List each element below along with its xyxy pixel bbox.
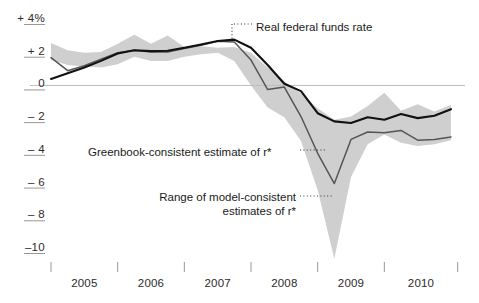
y-axis-tick-label: –10: [5, 241, 45, 253]
figure-container: + 4%+ 20– 2– 4– 6– 8–10 2005200620072008…: [0, 0, 479, 303]
annotation-greenbook-consistent-estimate-label: Greenbook-consistent estimate of r*: [88, 146, 271, 158]
x-axis-year-label: 2009: [321, 277, 381, 289]
annotation-real-federal-funds-rate-label: Real federal funds rate: [256, 21, 372, 33]
y-axis-tick-label: – 8: [5, 208, 45, 220]
annotation-range-line-1: Range of model-consistent: [131, 190, 296, 204]
x-axis-year-label: 2010: [391, 277, 451, 289]
y-axis-tick-label: + 4%: [5, 12, 45, 24]
x-axis-year-label: 2006: [121, 277, 181, 289]
y-axis-tick-label: + 2: [5, 45, 45, 57]
x-axis-year-label: 2007: [188, 277, 248, 289]
annotation-range-line-2: estimates of r*: [131, 204, 296, 218]
y-axis-tick-label: – 6: [5, 176, 45, 188]
y-axis-tick-label: 0: [5, 77, 45, 89]
y-axis-tick-label: – 4: [5, 143, 45, 155]
x-axis-year-label: 2005: [54, 277, 114, 289]
annotation-real-federal-funds-rate: Real federal funds rate: [256, 20, 372, 34]
annotation-range-of-model-consistent-estimates: Range of model-consistent estimates of r…: [131, 190, 296, 218]
x-axis-tick-marks: [51, 262, 458, 272]
y-axis-tick-label: – 2: [5, 110, 45, 122]
annotation-greenbook-consistent-estimate: Greenbook-consistent estimate of r*: [88, 145, 271, 159]
x-axis-year-label: 2008: [254, 277, 314, 289]
